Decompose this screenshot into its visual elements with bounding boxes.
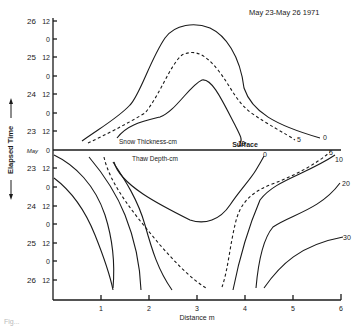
arrow-up-icon xyxy=(9,98,13,104)
thaw-contour-5 xyxy=(104,157,206,288)
upper-tick-label: 0 xyxy=(46,36,50,43)
svg-text:0: 0 xyxy=(263,151,267,158)
arrow-down-icon xyxy=(9,194,13,200)
svg-text:20: 20 xyxy=(342,180,350,187)
x-axis-title: Distance m xyxy=(179,314,214,321)
lower-day-label: 23 xyxy=(27,164,36,173)
lower-tick-label: 12 xyxy=(42,165,50,172)
lower-day-label: 26 xyxy=(27,276,36,285)
lower-tick-label: 0 xyxy=(46,258,50,265)
thaw-depth-label: Thaw Depth-cm xyxy=(132,155,178,163)
lower-tick-label: 12 xyxy=(42,277,50,284)
upper-tick-label: 0 xyxy=(46,73,50,80)
snow-contour-5 xyxy=(88,53,295,143)
lower-tick-label: 0 xyxy=(46,184,50,191)
thaw-contour-0 xyxy=(114,156,264,222)
x-tick-label: 3 xyxy=(195,305,199,312)
lower-tick-label: 12 xyxy=(42,240,50,247)
svg-text:10: 10 xyxy=(335,156,343,163)
svg-text:10: 10 xyxy=(238,140,246,147)
x-tick-label: 6 xyxy=(339,305,343,312)
caption-fragment: Fig... xyxy=(4,318,20,326)
lower-day-label: 25 xyxy=(27,239,36,248)
upper-tick-label: 12 xyxy=(42,91,50,98)
svg-text:Elapsed Time: Elapsed Time xyxy=(6,126,15,174)
snow-thickness-label: Snow Thickness-cm xyxy=(119,138,177,145)
upper-tick-label: 0 xyxy=(46,147,50,154)
x-tick-label: 5 xyxy=(291,305,295,312)
upper-tick-label: 12 xyxy=(42,18,50,25)
snow-thaw-diagram: 12 0 12 0 12 0 12 0 26 25 24 23 May 12 0… xyxy=(0,0,361,326)
thaw-contour-30 xyxy=(264,237,343,288)
x-tick-label: 4 xyxy=(243,305,247,312)
upper-day-label: 24 xyxy=(27,90,36,99)
x-ticks xyxy=(101,295,293,300)
upper-day-label: 23 xyxy=(27,127,36,136)
x-tick-label: 2 xyxy=(147,305,151,312)
thaw-contour-left-mid2 xyxy=(113,162,172,290)
lower-tick-label: 12 xyxy=(42,203,50,210)
lower-tick-label: 0 xyxy=(46,221,50,228)
upper-day-label: 25 xyxy=(27,53,36,62)
svg-text:30: 30 xyxy=(343,234,351,241)
x-tick-label: 1 xyxy=(99,305,103,312)
thaw-contour-20 xyxy=(256,183,340,288)
lower-day-label: 24 xyxy=(27,202,36,211)
thaw-contour-left-mid xyxy=(89,157,141,290)
upper-tick-label: 12 xyxy=(42,128,50,135)
thaw-contour-10 xyxy=(233,155,335,290)
snow-contour-10 xyxy=(117,80,241,143)
upper-tick-label: 12 xyxy=(42,54,50,61)
svg-text:0: 0 xyxy=(323,134,327,141)
upper-day-label: 26 xyxy=(27,17,36,26)
thaw-contour-left-outer xyxy=(54,155,114,288)
svg-text:5: 5 xyxy=(297,136,301,143)
thaw-contour-left-inner xyxy=(54,178,113,290)
y-axis-title: Elapsed Time xyxy=(6,98,15,200)
month-label: May xyxy=(27,148,39,154)
snow-contour-0 xyxy=(82,25,320,141)
svg-text:5: 5 xyxy=(329,149,333,156)
upper-tick-label: 0 xyxy=(46,110,50,117)
date-range: May 23-May 26 1971 xyxy=(249,8,319,17)
